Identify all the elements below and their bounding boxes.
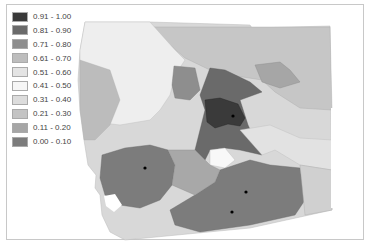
legend-item: 0.31 - 0.40 bbox=[12, 93, 92, 106]
legend-label: 0.31 - 0.40 bbox=[33, 95, 71, 104]
legend-item: 0.41 - 0.50 bbox=[12, 79, 92, 92]
legend-item: 0.11 - 0.20 bbox=[12, 121, 92, 134]
legend-swatch bbox=[12, 137, 28, 147]
legend-item: 0.71 - 0.80 bbox=[12, 38, 92, 51]
legend-item: 0.81 - 0.90 bbox=[12, 24, 92, 37]
legend-swatch bbox=[12, 81, 28, 91]
legend-item: 0.61 - 0.70 bbox=[12, 52, 92, 65]
legend-item: 0.91 - 1.00 bbox=[12, 10, 92, 23]
legend-item: 0.51 - 0.60 bbox=[12, 66, 92, 79]
legend: 0.91 - 1.00 0.81 - 0.90 0.71 - 0.80 0.61… bbox=[12, 10, 92, 149]
point-marker bbox=[230, 210, 233, 213]
point-marker bbox=[244, 190, 247, 193]
legend-label: 0.61 - 0.70 bbox=[33, 54, 71, 63]
region-far-east bbox=[300, 165, 332, 215]
legend-label: 0.51 - 0.60 bbox=[33, 68, 71, 77]
legend-swatch bbox=[12, 53, 28, 63]
legend-label: 0.00 - 0.10 bbox=[33, 137, 71, 146]
legend-label: 0.21 - 0.30 bbox=[33, 109, 71, 118]
legend-swatch bbox=[12, 25, 28, 35]
point-marker bbox=[231, 114, 234, 117]
legend-swatch bbox=[12, 109, 28, 119]
legend-swatch bbox=[12, 12, 28, 22]
point-marker bbox=[143, 166, 146, 169]
legend-label: 0.71 - 0.80 bbox=[33, 40, 71, 49]
legend-swatch bbox=[12, 67, 28, 77]
legend-label: 0.11 - 0.20 bbox=[33, 123, 71, 132]
legend-swatch bbox=[12, 123, 28, 133]
legend-swatch bbox=[12, 39, 28, 49]
legend-label: 0.81 - 0.90 bbox=[33, 26, 71, 35]
legend-swatch bbox=[12, 95, 28, 105]
legend-item: 0.21 - 0.30 bbox=[12, 107, 92, 120]
legend-item: 0.00 - 0.10 bbox=[12, 135, 92, 148]
legend-label: 0.41 - 0.50 bbox=[33, 81, 71, 90]
legend-label: 0.91 - 1.00 bbox=[33, 12, 71, 21]
